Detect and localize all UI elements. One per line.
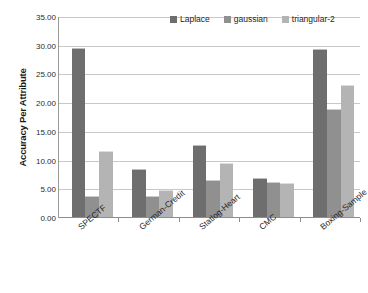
y-axis-tick-label: 5.00	[22, 185, 56, 194]
bars-layer	[59, 17, 360, 218]
bar-group	[253, 17, 294, 218]
legend-swatch-icon	[170, 16, 177, 23]
bar-slot	[341, 17, 355, 218]
x-axis-tick	[360, 218, 361, 222]
legend-swatch-icon	[224, 16, 231, 23]
bar-slot	[327, 17, 341, 218]
bar-slot	[72, 17, 86, 218]
bar-group	[313, 17, 354, 218]
x-axis-tick	[179, 218, 180, 222]
bar-group	[72, 17, 113, 218]
legend: Laplacegaussiantriangular-2	[170, 14, 335, 24]
x-axis-tick	[300, 218, 301, 222]
legend-item[interactable]: gaussian	[224, 14, 268, 24]
plot-area	[58, 17, 360, 218]
bar-slot	[146, 17, 160, 218]
y-axis-tick-label: 10.00	[22, 156, 56, 165]
y-axis-tick-labels: 0.005.0010.0015.0020.0025.0030.0035.00	[22, 0, 56, 293]
y-axis-tick-label: 35.00	[22, 13, 56, 22]
bar-slot	[132, 17, 146, 218]
bar[interactable]	[313, 49, 327, 218]
legend-item[interactable]: triangular-2	[282, 14, 335, 24]
x-axis-tick	[118, 218, 119, 222]
legend-item[interactable]: Laplace	[170, 14, 210, 24]
bar-group	[132, 17, 173, 218]
bar[interactable]	[327, 109, 341, 218]
bar[interactable]	[253, 178, 267, 218]
bar-slot	[193, 17, 207, 218]
legend-label: triangular-2	[292, 14, 335, 24]
y-axis-tick-label: 15.00	[22, 127, 56, 136]
bar[interactable]	[280, 183, 294, 218]
bar[interactable]	[193, 145, 207, 218]
bar-slot	[220, 17, 234, 218]
bar-group	[193, 17, 234, 218]
legend-label: gaussian	[234, 14, 268, 24]
bar-slot	[267, 17, 281, 218]
bar[interactable]	[132, 169, 146, 218]
y-axis-tick-label: 25.00	[22, 70, 56, 79]
legend-label: Laplace	[180, 14, 210, 24]
bar-slot	[206, 17, 220, 218]
legend-swatch-icon	[282, 16, 289, 23]
bar-slot	[313, 17, 327, 218]
y-axis-tick-label: 0.00	[22, 214, 56, 223]
bar-slot	[85, 17, 99, 218]
bar-slot	[280, 17, 294, 218]
bar-slot	[253, 17, 267, 218]
bar-slot	[159, 17, 173, 218]
x-axis-tick	[239, 218, 240, 222]
y-axis-tick-label: 20.00	[22, 99, 56, 108]
y-axis-tick-label: 30.00	[22, 41, 56, 50]
bar[interactable]	[72, 48, 86, 218]
bar-slot	[99, 17, 113, 218]
